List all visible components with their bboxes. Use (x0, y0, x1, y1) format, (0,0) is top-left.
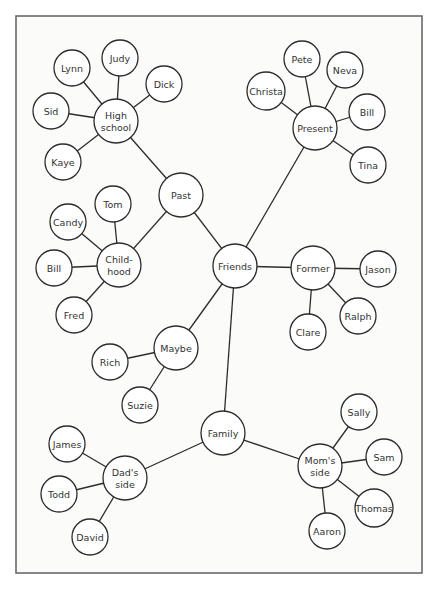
node-bill1: Bill (36, 250, 72, 286)
node-family: Family (201, 411, 245, 455)
node-childhood: Child-hood (97, 243, 141, 287)
node-pete: Pete (284, 41, 320, 77)
node-label: Dick (154, 79, 175, 90)
node-bill2: Bill (349, 94, 385, 130)
node-fred: Fred (56, 297, 92, 333)
node-david: David (72, 519, 108, 555)
node-kaye: Kaye (45, 144, 81, 180)
node-label: Jason (364, 264, 390, 275)
node-label: Family (208, 428, 239, 439)
node-label: Judy (109, 53, 131, 64)
node-label: Sam (373, 452, 394, 463)
node-label: Thomas (354, 503, 393, 514)
node-label: Candy (53, 217, 84, 228)
node-ralph: Ralph (340, 298, 376, 334)
node-label: Clare (296, 327, 321, 338)
friends-mind-map: FriendsPastPresentFormerMaybeFamilyHighs… (0, 0, 439, 589)
node-label: Tina (357, 160, 378, 171)
node-label: Lynn (61, 63, 83, 74)
node-dadsside: Dad'sside (103, 456, 147, 500)
node-label: Tom (102, 199, 122, 210)
node-aaron: Aaron (309, 513, 345, 549)
node-judy: Judy (102, 40, 138, 76)
node-label: High (105, 110, 127, 121)
node-suzie: Suzie (122, 387, 158, 423)
node-lynn: Lynn (54, 50, 90, 86)
node-clare: Clare (290, 314, 326, 350)
node-label: Present (297, 123, 333, 134)
node-label: Past (171, 190, 191, 201)
node-label: Suzie (127, 400, 153, 411)
node-sam: Sam (366, 439, 402, 475)
node-jason: Jason (360, 251, 396, 287)
node-neva: Neva (327, 52, 363, 88)
node-label: Bill (47, 263, 61, 274)
node-candy: Candy (50, 204, 86, 240)
node-dick: Dick (146, 66, 182, 102)
node-past: Past (159, 173, 203, 217)
node-label: Former (296, 263, 330, 274)
node-sally: Sally (341, 394, 377, 430)
node-label: school (101, 122, 131, 133)
node-label: Neva (333, 65, 357, 76)
node-maybe: Maybe (154, 326, 198, 370)
node-label: Fred (64, 310, 84, 321)
node-label: Aaron (313, 526, 341, 537)
node-label: Child- (105, 254, 132, 265)
node-tina: Tina (350, 147, 386, 183)
node-label: Pete (292, 54, 313, 65)
node-former: Former (291, 246, 335, 290)
node-label: Dad's (112, 467, 139, 478)
node-label: side (310, 467, 330, 478)
node-label: Christa (249, 86, 283, 97)
node-label: Sally (348, 407, 371, 418)
node-label: hood (107, 266, 131, 277)
node-friends: Friends (213, 244, 257, 288)
node-highschool: Highschool (94, 99, 138, 143)
node-label: Kaye (51, 157, 75, 168)
node-sid: Sid (33, 93, 69, 129)
node-label: James (52, 439, 82, 450)
node-rich: Rich (92, 344, 128, 380)
node-james: James (49, 426, 85, 462)
node-label: Rich (100, 357, 120, 368)
node-label: Friends (218, 261, 252, 272)
node-label: David (76, 532, 103, 543)
node-label: Sid (44, 106, 59, 117)
node-tom: Tom (95, 186, 131, 222)
node-label: side (115, 479, 135, 490)
node-thomas: Thomas (354, 489, 393, 527)
node-todd: Todd (41, 476, 77, 512)
node-present: Present (293, 106, 337, 150)
node-label: Maybe (160, 343, 192, 354)
node-momsside: Mom'sside (298, 444, 342, 488)
node-label: Ralph (345, 311, 372, 322)
node-label: Bill (360, 107, 374, 118)
node-christa: Christa (247, 72, 285, 110)
node-label: Todd (47, 489, 70, 500)
node-label: Mom's (305, 455, 336, 466)
